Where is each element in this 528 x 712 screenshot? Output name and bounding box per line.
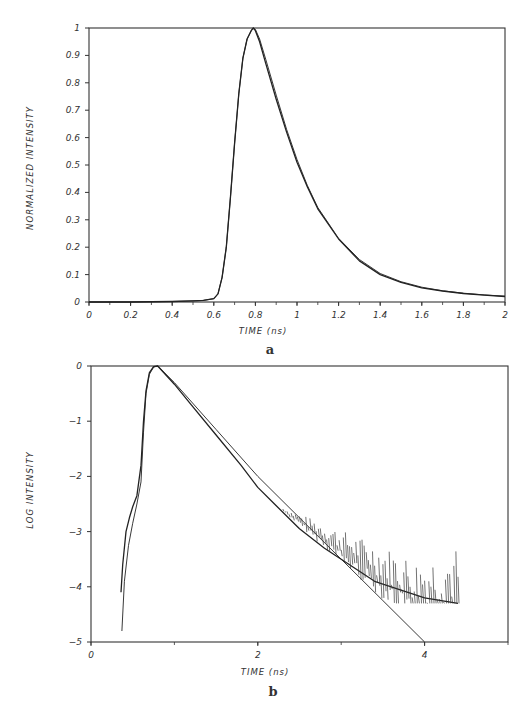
chart-a-ylabel: NORMALIZED INTENSITY — [25, 106, 35, 230]
x-tick-label: 1.2 — [331, 310, 346, 320]
chart-b-xlabel: TIME (ns) — [241, 667, 290, 677]
y-tick-label: −5 — [69, 637, 83, 647]
plot-frame — [91, 366, 508, 642]
x-tick-label: 0.8 — [248, 310, 263, 320]
chart-a-xlabel: TIME (ns) — [239, 326, 288, 336]
x-tick-label: 0 — [86, 310, 92, 320]
chart-a: 00.20.40.60.811.21.41.61.8200.10.20.30.4… — [0, 0, 528, 370]
chart-b: 024−5−4−3−2−10 TIME (ns) LOG INTENSITY b — [0, 355, 528, 712]
plot-frame — [89, 28, 505, 302]
chart-b-axes: 024−5−4−3−2−10 — [69, 361, 508, 660]
y-tick-label: 0.4 — [66, 187, 81, 197]
y-tick-label: −3 — [69, 527, 83, 537]
x-tick-label: 1.8 — [456, 310, 471, 320]
y-tick-label: 0 — [74, 297, 80, 307]
x-tick-label: 2 — [502, 310, 508, 320]
chart-b-ylabel: LOG INTENSITY — [25, 451, 35, 529]
x-tick-label: 0 — [88, 650, 94, 660]
panel-label-b: b — [268, 684, 277, 699]
y-tick-label: −2 — [69, 471, 83, 481]
x-tick-label: 2 — [255, 650, 261, 660]
y-tick-label: 0 — [76, 361, 82, 371]
figure-a: 00.20.40.60.811.21.41.61.8200.10.20.30.4… — [0, 0, 528, 370]
x-tick-label: 1.4 — [373, 310, 388, 320]
x-tick-label: 1.6 — [415, 310, 430, 320]
x-tick-label: 0.6 — [207, 310, 222, 320]
x-tick-label: 0.4 — [165, 310, 180, 320]
y-tick-label: 0.1 — [66, 270, 80, 280]
y-tick-label: 0.6 — [66, 133, 81, 143]
chart-a-series — [89, 28, 505, 302]
y-tick-label: −4 — [69, 582, 83, 592]
x-tick-label: 1 — [294, 310, 300, 320]
chart-b-series — [121, 366, 459, 642]
x-tick-label: 0.2 — [123, 310, 138, 320]
series-line-1 — [122, 366, 425, 642]
y-tick-label: 0.7 — [66, 105, 81, 115]
y-tick-label: 0.3 — [66, 215, 81, 225]
series-line-1 — [89, 28, 505, 302]
y-tick-label: 0.9 — [66, 50, 81, 60]
chart-a-axes: 00.20.40.60.811.21.41.61.8200.10.20.30.4… — [66, 23, 508, 320]
y-tick-label: 1 — [74, 23, 80, 33]
y-tick-label: 0.5 — [66, 160, 81, 170]
figure-b: 024−5−4−3−2−10 TIME (ns) LOG INTENSITY b — [0, 355, 528, 712]
series-line-0 — [89, 28, 505, 302]
y-tick-label: −1 — [69, 416, 82, 426]
x-tick-label: 4 — [422, 650, 428, 660]
y-tick-label: 0.8 — [66, 78, 81, 88]
y-tick-label: 0.2 — [66, 242, 81, 252]
series-line-0 — [121, 366, 458, 603]
